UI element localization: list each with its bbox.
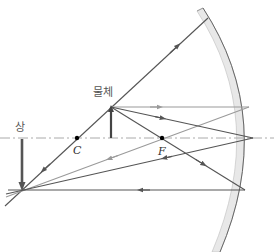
- center-of-curvature-point: [75, 136, 79, 140]
- image-label: 상: [15, 122, 25, 133]
- concave-mirror: [197, 8, 244, 252]
- ray-to-vertex: [6, 107, 253, 194]
- object-label: 물체: [93, 87, 113, 98]
- ray-through-focus: [8, 107, 245, 190]
- object-arrow: [108, 105, 114, 138]
- focal-point-label: F: [158, 146, 166, 157]
- center-of-curvature-label: C: [73, 145, 81, 156]
- diagram-canvas: [0, 0, 274, 252]
- ray-through-center: [5, 18, 208, 206]
- ray-parallel: [6, 107, 249, 197]
- image-arrow: [19, 139, 26, 191]
- focal-point: [160, 136, 164, 140]
